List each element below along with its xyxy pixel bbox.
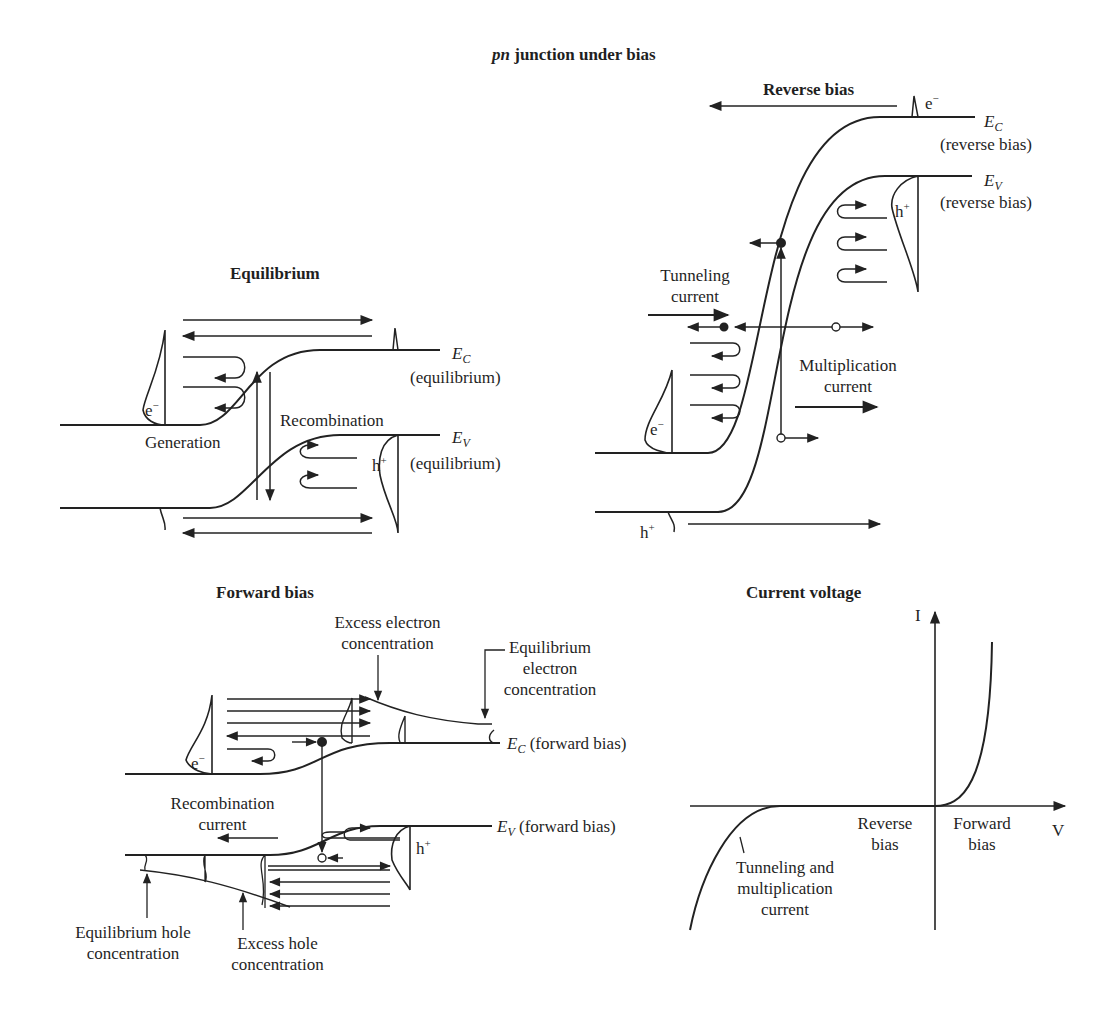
recombination-current-label: Recombinationcurrent [160,793,285,835]
ev-note: (equilibrium) [410,453,501,474]
reverse-bias-region-label: Reversebias [845,813,925,855]
i-axis-label: I [915,605,921,626]
tunneling-current-label: Tunnelingcurrent [645,265,745,307]
reverse-bias-band-diagram [595,96,975,532]
rb-ec-note: (reverse bias) [940,134,1032,155]
iv-title: Current voltage [746,582,861,603]
ev-label: EV [452,427,470,454]
rb-electron-label: e− [925,88,939,114]
forward-bias-region-label: Forwardbias [942,813,1022,855]
generation-label: Generation [145,432,221,453]
rb-hole-label: h+ [895,196,910,222]
ec-forward-line [125,743,500,774]
ec-note: (equilibrium) [410,367,501,388]
hole-label: h+ [372,450,387,476]
rb-electron-dist-label: e− [650,414,664,440]
excess-electron-label: Excess electronconcentration [320,612,455,654]
fb-ec-label: EC (forward bias) [507,733,626,760]
electron-label: e− [145,395,159,421]
fb-hole-label: h+ [416,833,431,859]
tunneling-multiplication-label: Tunneling andmultiplicationcurrent [720,857,850,920]
excess-hole-label: Excess holeconcentration [215,933,340,975]
recombination-label: Recombination [280,410,384,431]
multiplication-current-label: Multiplicationcurrent [788,355,908,397]
forward-curve [935,642,992,806]
figure-title: pn junction under bias [492,44,656,65]
fb-ev-label: EV (forward bias) [497,816,616,843]
rb-ev-note: (reverse bias) [940,192,1032,213]
equilibrium-title: Equilibrium [230,263,320,284]
reverse-bias-title: Reverse bias [763,79,854,100]
fb-electron-label: e− [191,748,205,774]
forward-bias-title: Forward bias [216,582,314,603]
rb-hole-small-label: h+ [640,517,655,543]
eq-electron-label: Equilibriumelectronconcentration [485,637,615,700]
eq-hole-label: Equilibrium holeconcentration [58,922,208,964]
forward-bias-band-diagram [125,650,505,930]
v-axis-label: V [1052,820,1064,841]
